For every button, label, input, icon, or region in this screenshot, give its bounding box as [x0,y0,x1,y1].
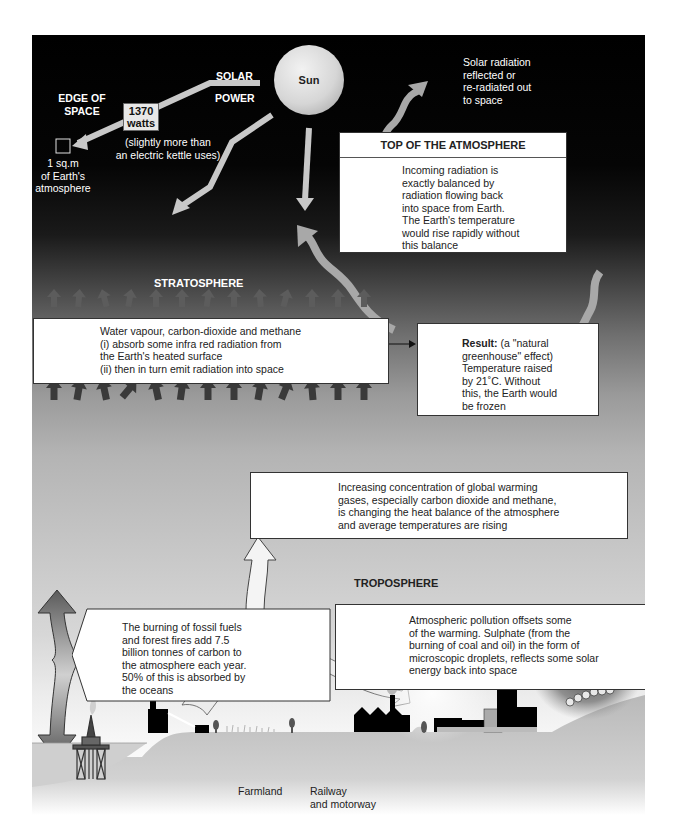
greenhouse-gases-text: Water vapour, carbon-dioxide and methane… [100,325,301,375]
greenhouse-diagram: EDGE OF SPACE SOLAR POWER Sun 1370 watts… [32,35,645,815]
kettle-note: (slightly more than an electric kettle u… [98,136,238,161]
edge-of-space-label: EDGE OF SPACE [42,92,122,117]
troposphere-label: TROPOSPHERE [354,577,438,590]
sun-label: Sun [284,74,334,87]
global-warming-box: Increasing concentration of global warmi… [250,472,628,539]
result-text: Result: (a "natural greenhouse" effect) … [462,337,557,412]
power-value-label: 1370 watts [123,103,159,131]
atmospheric-pollution-box: Atmospheric pollution offsets some of th… [335,604,645,690]
atmospheric-pollution-text: Atmospheric pollution offsets some of th… [409,614,599,677]
greenhouse-gases-box: Water vapour, carbon-dioxide and methane… [33,318,389,384]
tree-icon [213,718,295,733]
top-of-atmosphere-heading: TOP OF THE ATMOSPHERE [340,133,566,158]
result-box: Result: (a "natural greenhouse" effect) … [417,323,599,416]
power-label: POWER [215,92,255,105]
farmland-label: Farmland [238,785,282,798]
reflected-radiation-note: Solar radiation reflected or re-radiated… [463,56,531,106]
global-warming-text: Increasing concentration of global warmi… [338,481,559,531]
stratosphere-label: STRATOSPHERE [154,277,243,290]
top-of-atmosphere-text: Incoming radiation is exactly balanced b… [402,164,519,252]
fossil-fuels-text: The burning of fossil fuels and forest f… [122,621,246,696]
top-of-atmosphere-box: TOP OF THE ATMOSPHERE Incoming radiation… [339,132,567,253]
ir-arrows-upper [47,287,371,308]
solar-label: SOLAR [216,70,253,83]
unit-area-label: 1 sq.m of Earth's atmosphere [32,157,99,195]
railway-motorway-label: Railway and motorway [310,785,376,810]
